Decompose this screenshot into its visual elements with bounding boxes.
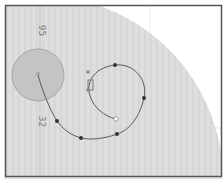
label-top: 95 — [37, 25, 46, 36]
path-node[interactable] — [86, 88, 90, 92]
path-node[interactable] — [86, 70, 90, 74]
path-node[interactable] — [113, 63, 117, 67]
diagram-canvas — [0, 0, 224, 183]
path-node[interactable] — [115, 132, 119, 136]
path-node[interactable] — [142, 96, 146, 100]
path-end-point[interactable] — [114, 117, 118, 121]
label-bottom: 32 — [37, 116, 46, 127]
path-node[interactable] — [55, 119, 59, 123]
path-node[interactable] — [79, 136, 83, 140]
